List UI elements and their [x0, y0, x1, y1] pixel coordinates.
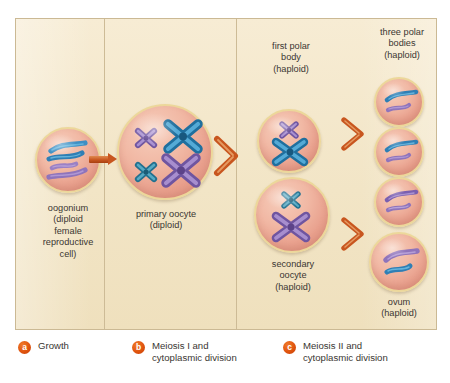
chromosomes-polar-body-3 [383, 189, 421, 219]
caption-secondary-oocyte: secondary oocyte (haploid) [248, 259, 338, 293]
connector-meiosis-ii-lower [342, 214, 372, 254]
chromosomes-ovum [381, 247, 423, 281]
legend-label-growth: Growth [38, 340, 69, 352]
connector-meiosis-i [215, 131, 247, 181]
chromosome-purple-small-polar1 [278, 121, 300, 139]
caption-oogonium: oogonium (diploid female reproductive ce… [20, 203, 116, 260]
chromosome-blue-large-polar1 [271, 138, 309, 166]
caption-ovum: ovum (haploid) [361, 297, 437, 320]
cell-polar-body-3 [374, 177, 424, 227]
chromosome-teal-small-primary [134, 162, 158, 182]
legend: a Growth b Meiosis I and cytoplasmic div… [15, 338, 435, 374]
cell-first-polar-body [257, 109, 321, 173]
legend-badge-c: c [283, 341, 296, 354]
legend-badge-a: a [18, 341, 31, 354]
caption-first-polar-body: first polar body (haploid) [249, 41, 333, 75]
panel-divider-growth [104, 19, 105, 329]
chromosome-purple-large-primary [161, 154, 201, 187]
caption-three-polar-bodies: three polar bodies (haploid) [364, 27, 440, 61]
cell-secondary-oocyte [254, 177, 330, 253]
cell-primary-oocyte [117, 104, 213, 200]
cell-polar-body-2 [374, 127, 424, 177]
chromosomes-polar-body-1 [383, 89, 421, 119]
legend-label-meiosis-i: Meiosis I and cytoplasmic division [152, 340, 237, 363]
legend-badge-b: b [132, 341, 145, 354]
chromosome-purple-small-primary [134, 128, 158, 148]
cell-ovum [369, 232, 429, 292]
legend-item-meiosis-i: b Meiosis I and cytoplasmic division [132, 340, 237, 363]
cell-polar-body-1 [374, 77, 424, 127]
arrow-growth [89, 156, 109, 163]
chromosome-blue-large-primary [163, 120, 203, 153]
chromosome-purple-large-secondary [271, 212, 311, 242]
chromosomes-polar-body-2 [383, 139, 421, 169]
legend-item-growth: a Growth [18, 340, 69, 354]
connector-meiosis-ii-upper [342, 114, 372, 154]
legend-label-meiosis-ii: Meiosis II and cytoplasmic division [303, 340, 388, 363]
chromosome-teal-small-secondary [280, 191, 302, 209]
oogenesis-diagram-panel: oogonium (diploid female reproductive ce… [15, 18, 437, 330]
caption-primary-oocyte: primary oocyte (diploid) [116, 209, 216, 232]
legend-item-meiosis-ii: c Meiosis II and cytoplasmic division [283, 340, 388, 363]
